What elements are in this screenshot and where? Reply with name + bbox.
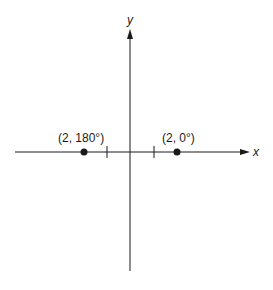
point-2-180 xyxy=(81,149,88,156)
y-axis-label: y xyxy=(127,13,133,27)
y-axis-arrow-icon xyxy=(127,29,133,39)
point-label-2-0: (2, 0°) xyxy=(162,131,195,145)
point-2-0 xyxy=(174,149,181,156)
point-label-2-180: (2, 180°) xyxy=(58,131,104,145)
polar-diagram xyxy=(0,0,273,290)
x-axis-arrow-icon xyxy=(240,149,250,155)
x-axis-label: x xyxy=(253,145,259,159)
